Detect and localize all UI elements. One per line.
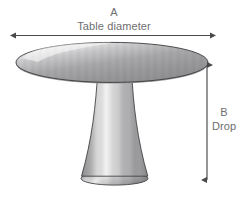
dimension-a-letter: A [0,6,228,19]
dimension-b-letter: B [208,106,240,119]
tabletop-group [16,42,208,83]
table-dimensions-diagram: A Table diameter B Drop [0,0,244,200]
pedestal-column-grain [82,74,148,176]
pedestal-group [81,74,148,185]
dimension-a-name: Table diameter [0,20,228,33]
dimension-b-name: Drop [206,120,242,133]
